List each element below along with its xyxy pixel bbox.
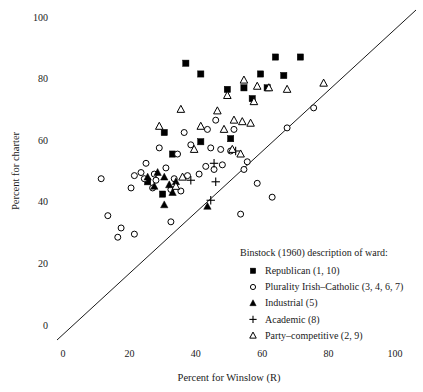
x-tick-label: 100 <box>388 348 403 359</box>
x-tick-label: 0 <box>61 348 66 359</box>
marker-open-triangle <box>253 82 261 89</box>
circle-glyph <box>284 125 290 131</box>
marker-filled-square <box>198 71 204 77</box>
y-axis-title: Percent for charter <box>10 131 21 210</box>
marker-filled-square <box>228 136 234 142</box>
legend-item-label: Plurality Irish–Catholic (3, 4, 6, 7) <box>265 281 403 293</box>
circle-glyph <box>218 146 224 152</box>
marker-open-triangle <box>240 76 248 83</box>
square-glyph <box>241 85 247 91</box>
triangle-glyph <box>161 173 168 180</box>
circle-glyph <box>231 126 237 132</box>
legend-title: Binstock (1960) description of ward: <box>240 247 388 259</box>
marker-filled-triangle <box>204 202 211 209</box>
x-tick-label: 20 <box>124 348 134 359</box>
marker-open-circle <box>175 151 181 157</box>
data-points-group <box>98 54 327 240</box>
marker-open-circle <box>156 145 162 151</box>
circle-glyph <box>244 159 250 165</box>
marker-open-circle <box>269 194 275 200</box>
square-glyph <box>250 268 255 273</box>
x-tick-label: 80 <box>324 348 334 359</box>
marker-open-circle <box>115 234 121 240</box>
circle-glyph <box>168 219 174 225</box>
legend-item[interactable]: Industrial (5) <box>250 297 318 309</box>
triangle-outline-glyph <box>320 79 328 86</box>
circle-glyph <box>175 151 181 157</box>
x-tick-label: 60 <box>257 348 267 359</box>
legend-item[interactable]: Plurality Irish–Catholic (3, 4, 6, 7) <box>250 281 403 293</box>
axis-ticks-group: 020406080100020406080100 <box>33 12 403 360</box>
square-glyph <box>198 71 204 77</box>
y-tick-label: 40 <box>38 196 48 207</box>
marker-open-triangle <box>214 107 222 114</box>
marker-filled-square <box>161 129 167 135</box>
square-glyph <box>257 71 263 77</box>
marker-open-triangle <box>156 122 164 129</box>
circle-glyph <box>219 162 225 168</box>
series-1 <box>98 105 316 240</box>
y-tick-label: 100 <box>33 12 48 23</box>
triangle-outline-glyph <box>239 118 247 125</box>
marker-open-circle <box>163 165 169 171</box>
legend-item-label: Republican (1, 10) <box>265 265 340 277</box>
square-glyph <box>228 136 234 142</box>
legend-group: Binstock (1960) description of ward:Repu… <box>240 247 403 342</box>
triangle-outline-glyph <box>240 76 248 83</box>
triangle-outline-glyph <box>247 119 255 126</box>
triangle-outline-glyph <box>253 82 261 89</box>
circle-glyph <box>153 177 159 183</box>
marker-open-triangle <box>220 125 228 132</box>
square-glyph <box>272 54 278 60</box>
triangle-glyph <box>166 181 173 188</box>
y-tick-label: 0 <box>43 320 48 331</box>
y-tick-label: 20 <box>38 258 48 269</box>
marker-filled-square <box>241 85 247 91</box>
marker-open-circle <box>238 211 244 217</box>
circle-glyph <box>98 176 104 182</box>
y-tick-label: 60 <box>38 135 48 146</box>
marker-plus <box>210 159 218 167</box>
marker-open-circle <box>203 163 209 169</box>
x-axis-title: Percent for Winslow (R) <box>178 372 281 384</box>
marker-open-circle <box>118 225 124 231</box>
legend-item[interactable]: Republican (1, 10) <box>250 265 339 277</box>
marker-open-circle <box>254 180 260 186</box>
triangle-outline-glyph <box>283 85 291 92</box>
plot-canvas: 020406080100020406080100 Percent for Win… <box>0 0 423 392</box>
marker-open-circle <box>231 126 237 132</box>
circle-glyph <box>203 163 209 169</box>
marker-open-circle <box>138 170 144 176</box>
marker-filled-square <box>257 71 263 77</box>
legend-item[interactable]: Academic (8) <box>249 314 319 326</box>
square-glyph <box>183 60 189 66</box>
marker-open-circle <box>131 231 137 237</box>
circle-glyph <box>213 117 219 123</box>
legend-item[interactable]: Party–competitive (2, 9) <box>250 330 363 342</box>
circle-glyph <box>138 170 144 176</box>
marker-open-triangle <box>230 116 238 123</box>
marker-plus <box>212 178 220 186</box>
circle-glyph <box>115 234 121 240</box>
circle-glyph <box>196 171 202 177</box>
marker-open-circle <box>105 213 111 219</box>
marker-open-circle <box>213 117 219 123</box>
marker-open-circle <box>208 145 214 151</box>
circle-glyph <box>131 231 137 237</box>
legend-item-label: Academic (8) <box>265 314 320 326</box>
circle-glyph <box>105 213 111 219</box>
legend-item-label: Party–competitive (2, 9) <box>265 330 362 342</box>
circle-glyph <box>131 173 137 179</box>
marker-filled-triangle <box>250 300 256 306</box>
marker-open-circle <box>311 105 317 111</box>
marker-open-circle <box>284 125 290 131</box>
square-glyph <box>297 54 303 60</box>
circle-glyph <box>208 145 214 151</box>
marker-open-circle <box>219 162 225 168</box>
triangle-outline-glyph <box>156 122 164 129</box>
marker-open-triangle <box>250 332 256 338</box>
marker-open-triangle <box>177 105 185 112</box>
triangle-glyph <box>161 201 168 208</box>
square-glyph <box>281 72 287 78</box>
marker-filled-triangle <box>161 173 168 180</box>
